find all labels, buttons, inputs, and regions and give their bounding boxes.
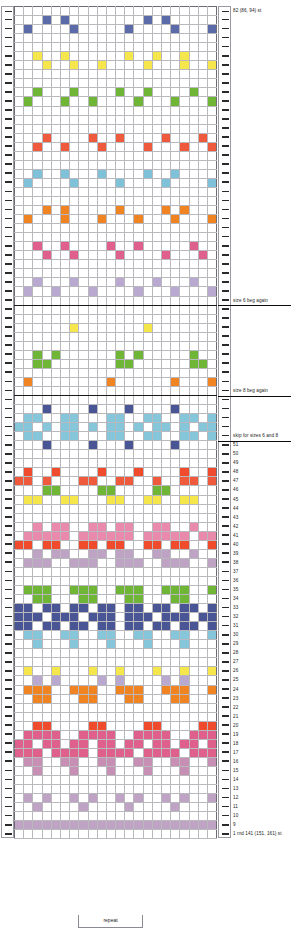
chart-cell-empty[interactable]	[60, 160, 69, 169]
chart-cell-empty[interactable]	[116, 368, 125, 377]
chart-cell-empty[interactable]	[70, 830, 79, 839]
chart-cell-empty[interactable]	[207, 7, 216, 16]
chart-cell-empty[interactable]	[116, 757, 125, 766]
chart-cell-empty[interactable]	[143, 785, 152, 794]
chart-cell-empty[interactable]	[125, 341, 134, 350]
chart-cell-empty[interactable]	[88, 604, 97, 613]
chart-cell-empty[interactable]	[143, 79, 152, 88]
chart-cell-filled[interactable]	[189, 748, 198, 757]
chart-cell-empty[interactable]	[51, 61, 60, 70]
chart-cell-filled[interactable]	[33, 414, 42, 423]
chart-cell-empty[interactable]	[189, 169, 198, 178]
chart-cell-filled[interactable]	[51, 468, 60, 477]
chart-cell-empty[interactable]	[162, 414, 171, 423]
chart-cell-empty[interactable]	[79, 287, 88, 296]
chart-cell-empty[interactable]	[207, 233, 216, 242]
chart-cell-empty[interactable]	[15, 115, 24, 124]
chart-cell-empty[interactable]	[134, 441, 143, 450]
chart-cell-empty[interactable]	[51, 775, 60, 784]
chart-cell-empty[interactable]	[171, 721, 180, 730]
chart-cell-empty[interactable]	[171, 495, 180, 504]
chart-cell-empty[interactable]	[24, 278, 33, 287]
chart-cell-empty[interactable]	[51, 386, 60, 395]
chart-cell-empty[interactable]	[33, 649, 42, 658]
chart-cell-empty[interactable]	[51, 215, 60, 224]
chart-cell-empty[interactable]	[189, 504, 198, 513]
chart-cell-empty[interactable]	[143, 486, 152, 495]
chart-cell-empty[interactable]	[180, 730, 189, 739]
chart-cell-filled[interactable]	[79, 730, 88, 739]
chart-cell-empty[interactable]	[88, 305, 97, 314]
chart-cell-filled[interactable]	[97, 142, 106, 151]
chart-cell-empty[interactable]	[116, 613, 125, 622]
chart-cell-empty[interactable]	[162, 70, 171, 79]
chart-cell-empty[interactable]	[70, 486, 79, 495]
chart-cell-empty[interactable]	[33, 785, 42, 794]
chart-cell-empty[interactable]	[42, 613, 51, 622]
chart-cell-empty[interactable]	[125, 278, 134, 287]
chart-cell-filled[interactable]	[125, 821, 134, 830]
chart-cell-empty[interactable]	[33, 332, 42, 341]
chart-cell-empty[interactable]	[24, 368, 33, 377]
chart-cell-filled[interactable]	[97, 757, 106, 766]
chart-cell-empty[interactable]	[15, 432, 24, 441]
chart-cell-empty[interactable]	[60, 115, 69, 124]
chart-cell-filled[interactable]	[33, 495, 42, 504]
chart-cell-empty[interactable]	[171, 7, 180, 16]
chart-cell-empty[interactable]	[60, 576, 69, 585]
chart-cell-empty[interactable]	[143, 441, 152, 450]
chart-cell-empty[interactable]	[106, 649, 115, 658]
chart-cell-filled[interactable]	[106, 242, 115, 251]
chart-cell-empty[interactable]	[134, 748, 143, 757]
chart-cell-empty[interactable]	[152, 124, 161, 133]
chart-cell-empty[interactable]	[134, 305, 143, 314]
chart-cell-empty[interactable]	[189, 405, 198, 414]
chart-cell-empty[interactable]	[42, 160, 51, 169]
chart-cell-empty[interactable]	[60, 595, 69, 604]
chart-cell-empty[interactable]	[134, 79, 143, 88]
chart-cell-empty[interactable]	[106, 830, 115, 839]
chart-cell-empty[interactable]	[198, 450, 207, 459]
chart-cell-empty[interactable]	[88, 43, 97, 52]
chart-cell-empty[interactable]	[198, 169, 207, 178]
chart-cell-empty[interactable]	[24, 396, 33, 405]
chart-cell-empty[interactable]	[207, 43, 216, 52]
chart-cell-filled[interactable]	[116, 251, 125, 260]
chart-cell-empty[interactable]	[189, 124, 198, 133]
chart-cell-empty[interactable]	[180, 549, 189, 558]
chart-cell-empty[interactable]	[162, 359, 171, 368]
chart-cell-empty[interactable]	[189, 812, 198, 821]
chart-cell-filled[interactable]	[180, 558, 189, 567]
chart-cell-filled[interactable]	[162, 685, 171, 694]
chart-cell-empty[interactable]	[42, 34, 51, 43]
chart-cell-filled[interactable]	[106, 495, 115, 504]
chart-cell-empty[interactable]	[42, 459, 51, 468]
chart-cell-empty[interactable]	[198, 549, 207, 558]
chart-cell-empty[interactable]	[106, 124, 115, 133]
chart-cell-empty[interactable]	[116, 812, 125, 821]
chart-cell-empty[interactable]	[162, 377, 171, 386]
chart-cell-filled[interactable]	[70, 757, 79, 766]
chart-cell-empty[interactable]	[79, 242, 88, 251]
chart-cell-empty[interactable]	[207, 703, 216, 712]
chart-cell-empty[interactable]	[15, 142, 24, 151]
chart-cell-filled[interactable]	[207, 558, 216, 567]
chart-cell-filled[interactable]	[70, 748, 79, 757]
chart-cell-filled[interactable]	[60, 549, 69, 558]
chart-cell-empty[interactable]	[189, 215, 198, 224]
chart-cell-filled[interactable]	[180, 613, 189, 622]
chart-cell-empty[interactable]	[24, 712, 33, 721]
chart-cell-empty[interactable]	[152, 25, 161, 34]
chart-cell-empty[interactable]	[79, 658, 88, 667]
chart-cell-filled[interactable]	[134, 97, 143, 106]
chart-cell-empty[interactable]	[42, 377, 51, 386]
chart-cell-empty[interactable]	[33, 43, 42, 52]
chart-cell-empty[interactable]	[106, 106, 115, 115]
chart-cell-empty[interactable]	[134, 368, 143, 377]
chart-cell-filled[interactable]	[116, 558, 125, 567]
chart-cell-empty[interactable]	[97, 450, 106, 459]
chart-cell-empty[interactable]	[70, 341, 79, 350]
chart-cell-empty[interactable]	[24, 115, 33, 124]
chart-cell-empty[interactable]	[51, 305, 60, 314]
chart-cell-empty[interactable]	[15, 341, 24, 350]
